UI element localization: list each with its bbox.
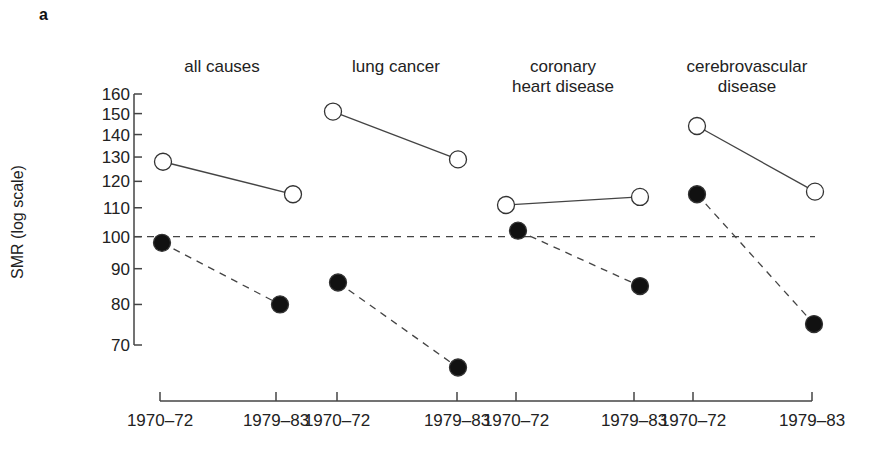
- x-tick-label: 1979–83: [424, 411, 490, 430]
- x-axis: 1970–721979–831970–721979–831970–721979–…: [127, 392, 845, 430]
- open-circle-marker: [155, 153, 172, 170]
- open-circle-marker: [450, 151, 467, 168]
- y-tick-label: 110: [103, 199, 130, 218]
- x-tick-label: 1979–83: [779, 411, 845, 430]
- data-series: [154, 103, 824, 376]
- open-circle-marker: [807, 183, 824, 200]
- x-tick-label: 1970–72: [127, 411, 193, 430]
- panel-1: [325, 103, 467, 376]
- filled-circle-marker: [272, 296, 289, 313]
- panel-3: [689, 117, 824, 332]
- x-tick-label: 1970–72: [660, 411, 726, 430]
- filled-circle-marker: [806, 316, 823, 333]
- y-tick-label: 120: [102, 172, 130, 191]
- open-circle-marker: [325, 103, 342, 120]
- y-tick-label: 90: [111, 260, 130, 279]
- filled-circle-marker: [510, 222, 527, 239]
- y-tick-label: 100: [102, 228, 130, 247]
- x-tick-label: 1979–83: [243, 411, 309, 430]
- y-tick-label: 80: [111, 295, 130, 314]
- open-circle-marker: [689, 117, 706, 134]
- x-tick-label: 1979–83: [601, 411, 667, 430]
- filled-circle-marker: [154, 234, 171, 251]
- y-tick-label: 160: [102, 85, 130, 104]
- open-circle-marker: [632, 188, 649, 205]
- panel-2: [498, 188, 649, 294]
- y-tick-label: 140: [102, 126, 130, 145]
- filled-circle-marker: [632, 278, 649, 295]
- x-tick-label: 1970–72: [304, 411, 370, 430]
- chart-plot: 160150140130120110100908070 1970–721979–…: [0, 0, 882, 459]
- filled-circle-marker: [330, 274, 347, 291]
- filled-circle-marker: [450, 359, 467, 376]
- filled-circle-marker: [689, 186, 706, 203]
- y-tick-label: 150: [102, 105, 130, 124]
- x-tick-label: 1970–72: [483, 411, 549, 430]
- open-circle-marker: [285, 186, 302, 203]
- y-tick-label: 70: [111, 336, 130, 355]
- y-tick-label: 130: [102, 148, 130, 167]
- panel-0: [154, 153, 302, 313]
- open-circle-marker: [498, 197, 515, 214]
- y-axis: 160150140130120110100908070: [102, 85, 142, 355]
